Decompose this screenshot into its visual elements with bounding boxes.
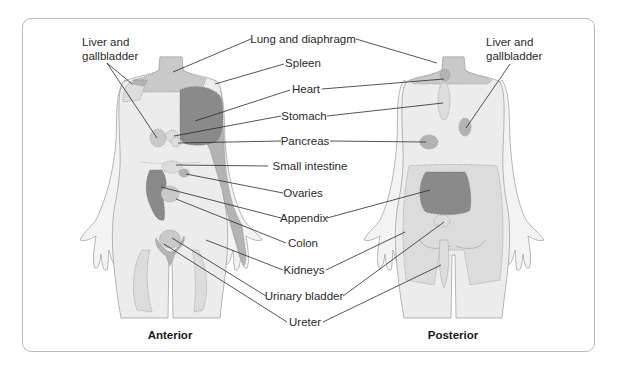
center-labels: Lung and diaphragm Spleen Heart Stomach …	[250, 33, 356, 328]
caption-anterior: Anterior	[148, 329, 193, 341]
label-anterior-liver-line2: gallbladder	[82, 50, 138, 62]
posterior-stomach-zone	[438, 82, 450, 120]
label-posterior-liver-line2: gallbladder	[486, 50, 542, 62]
anterior-pancreas-zone	[171, 137, 181, 147]
anterior-urinary-bladder-zone	[160, 230, 181, 248]
posterior-liver-zone	[459, 118, 471, 136]
anterior-small-intestine-zone	[162, 161, 182, 173]
label-ureter: Ureter	[289, 316, 321, 328]
anterior-ovaries-zone	[179, 169, 189, 177]
label-ovaries: Ovaries	[283, 187, 323, 199]
label-anterior-liver-line1: Liver and	[82, 36, 129, 48]
label-appendix: Appendix	[280, 212, 328, 224]
label-small-intestine: Small intestine	[273, 160, 348, 172]
label-pancreas: Pancreas	[281, 135, 330, 147]
anterior-colon-zone	[161, 186, 179, 202]
view-captions: Anterior Posterior	[148, 329, 479, 341]
label-spleen: Spleen	[285, 57, 321, 69]
posterior-small-intestine-zone	[420, 172, 471, 214]
caption-posterior: Posterior	[428, 329, 479, 341]
label-urinary-bladder: Urinary bladder	[265, 290, 344, 302]
posterior-lung-diaphragm-zone	[410, 57, 492, 84]
label-posterior-liver-line1: Liver and	[486, 36, 533, 48]
anterior-spleen-heart-zone	[180, 87, 223, 146]
label-kidneys: Kidneys	[284, 264, 325, 276]
referred-pain-diagram: Lung and diaphragm Spleen Heart Stomach …	[0, 0, 617, 366]
label-lung-diaphragm: Lung and diaphragm	[250, 33, 356, 45]
posterior-urinary-bladder-zone	[434, 215, 450, 227]
label-heart: Heart	[292, 83, 321, 95]
label-stomach: Stomach	[281, 110, 326, 122]
label-colon: Colon	[288, 237, 318, 249]
posterior-body	[364, 57, 544, 318]
anterior-body	[80, 57, 262, 318]
